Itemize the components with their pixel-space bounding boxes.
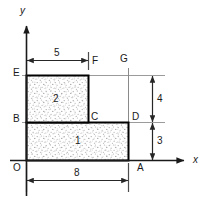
point-label-c: C: [91, 112, 98, 122]
point-label-o: O: [13, 163, 21, 173]
dimension-label-8: 8: [74, 168, 80, 178]
geometry-figure: y x O A B C D E F G 1 2 5 8 4 3: [0, 0, 209, 204]
reference-line-e: [22, 76, 26, 123]
point-label-d: D: [132, 112, 139, 122]
dimension-label-5: 5: [54, 48, 60, 58]
axis-label-y: y: [20, 6, 25, 16]
dimension-label-4: 4: [157, 94, 163, 104]
point-label-b: B: [13, 114, 20, 124]
figure-canvas: [0, 0, 209, 204]
dimension-label-3: 3: [157, 136, 163, 146]
region-label-2: 2: [53, 94, 59, 104]
point-label-a: A: [137, 163, 144, 173]
region-label-1: 1: [75, 136, 81, 146]
axis-label-x: x: [193, 155, 198, 165]
point-label-g: G: [120, 54, 128, 64]
point-label-f: F: [92, 56, 98, 66]
point-label-e: E: [13, 68, 20, 78]
